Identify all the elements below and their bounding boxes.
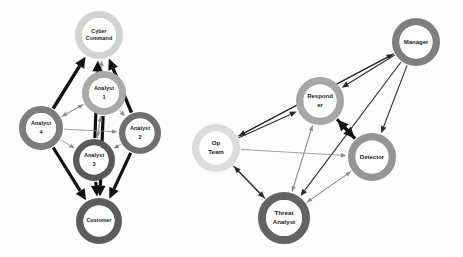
node-core [356, 141, 389, 174]
edge-line [53, 66, 80, 109]
edge-line [384, 65, 407, 126]
edge-detector-to-threat_analyst [307, 171, 352, 202]
node-responder[interactable]: Responder [300, 81, 341, 122]
node-analyst_2[interactable]: Analyst2 [122, 115, 158, 151]
arrowhead-icon [341, 153, 347, 157]
edge-analyst_1-to-analyst_4 [62, 104, 84, 116]
node-detector[interactable]: Detector [352, 137, 393, 178]
node-analyst_4[interactable]: Analyst4 [23, 110, 60, 147]
arrowhead-icon [381, 126, 386, 134]
edge-line [66, 104, 84, 114]
node-core [266, 200, 302, 236]
network-diagram-canvas: CyberCommandAnalyst1Analyst4Analyst2Anal… [0, 0, 463, 257]
arrowhead-icon [113, 144, 119, 149]
edge-line [311, 171, 351, 199]
arrowhead-icon [98, 116, 102, 122]
node-core [89, 78, 119, 108]
arrowhead-icon [112, 129, 118, 133]
edge-manager-to-detector [381, 65, 407, 133]
edge-line [294, 125, 313, 187]
edge-line [239, 171, 266, 198]
edge-manager-to-responder [342, 55, 395, 88]
edge-line [64, 129, 112, 131]
edge-analyst_1-to-analyst_2 [119, 110, 125, 116]
edge-op_team-to-responder [239, 112, 297, 138]
edge-threat_analyst-to-op_team [234, 166, 265, 198]
node-cyber_command[interactable]: CyberCommand [79, 15, 120, 56]
edge-line [241, 149, 341, 155]
node-core [304, 85, 337, 118]
node-core [82, 18, 116, 52]
edge-line [61, 140, 70, 146]
arrowhead-icon [62, 112, 68, 117]
node-analyst_3[interactable]: Analyst3 [76, 142, 112, 178]
node-core [80, 146, 109, 175]
network-diagram: CyberCommandAnalyst1Analyst4Analyst2Anal… [0, 0, 463, 257]
node-threat_analyst[interactable]: ThreatAnalyst [262, 196, 306, 240]
edge-line [119, 110, 121, 112]
arrowhead-icon [307, 197, 313, 202]
edge-responder-to-threat_analyst [292, 125, 313, 192]
node-core [84, 206, 115, 237]
arrowhead-icon [301, 189, 308, 196]
edge-analyst_4-to-analyst_2 [64, 129, 118, 134]
node-core [200, 132, 233, 165]
edge-line [97, 122, 99, 139]
node-layer: CyberCommandAnalyst1Analyst4Analyst2Anal… [23, 15, 437, 241]
node-core [26, 113, 56, 143]
edge-analyst_4-to-cyber_command [53, 57, 85, 109]
node-op_team[interactable]: OpTeam [196, 128, 237, 169]
arrowhead-icon [99, 60, 103, 66]
edge-analyst_4-to-analyst_3 [61, 140, 75, 148]
node-customer[interactable]: Customer [80, 202, 119, 241]
edge-analyst_2-to-analyst_3 [113, 144, 121, 149]
node-core [400, 26, 433, 59]
edge-line [118, 144, 121, 146]
node-analyst_1[interactable]: Analyst1 [86, 75, 123, 112]
arrowhead-icon [292, 186, 296, 192]
node-manager[interactable]: Manager [396, 22, 437, 63]
arrowhead-icon [69, 144, 75, 149]
edge-line [114, 153, 131, 189]
arrowhead-icon [342, 82, 349, 88]
node-core [126, 119, 155, 148]
edge-line [239, 114, 291, 137]
